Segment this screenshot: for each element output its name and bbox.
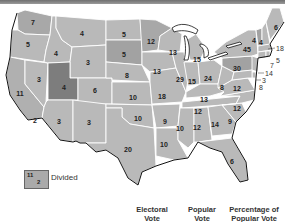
label-ca-divided: 2 bbox=[33, 117, 37, 124]
label-fl: 6 bbox=[230, 158, 234, 165]
label-mn: 12 bbox=[147, 38, 155, 45]
label-ut: 4 bbox=[62, 84, 66, 91]
state-or[interactable] bbox=[10, 30, 50, 62]
label-nh: 4 bbox=[259, 39, 263, 46]
label-mi: 15 bbox=[193, 56, 201, 63]
legend-divided-top: 11 bbox=[27, 172, 33, 178]
label-wi: 13 bbox=[169, 49, 177, 56]
label-wa: 7 bbox=[31, 19, 35, 26]
column-percentage-popular-vote: Percentage of Popular Vote bbox=[226, 205, 282, 222]
label-va: 12 bbox=[233, 85, 241, 92]
column-electoral-vote: Electoral Vote bbox=[130, 205, 174, 222]
label-ct: 7 bbox=[270, 62, 274, 69]
label-sd: 5 bbox=[122, 51, 126, 58]
label-in: 15 bbox=[188, 78, 196, 85]
state-de[interactable] bbox=[252, 72, 256, 78]
label-ny: 45 bbox=[243, 46, 251, 53]
column-popular-vote: Popular Vote bbox=[184, 205, 220, 222]
label-vt: 4 bbox=[252, 37, 256, 44]
label-az: 3 bbox=[57, 118, 61, 125]
label-id: 4 bbox=[54, 50, 58, 57]
label-nm: 3 bbox=[87, 119, 91, 126]
label-ia: 13 bbox=[153, 68, 161, 75]
label-wy: 3 bbox=[86, 59, 90, 66]
label-nv: 3 bbox=[37, 76, 41, 83]
label-nd: 5 bbox=[122, 31, 126, 38]
label-nc: 12 bbox=[233, 105, 241, 112]
label-oh: 24 bbox=[204, 75, 212, 82]
label-co: 6 bbox=[93, 87, 97, 94]
label-wv: 8 bbox=[220, 84, 224, 91]
label-la: 10 bbox=[160, 141, 168, 148]
legend-divided-bottom: 2 bbox=[37, 179, 40, 185]
column-electoral-line1: Electoral bbox=[130, 205, 174, 214]
label-ma: 18 bbox=[276, 45, 284, 52]
label-nj: 14 bbox=[265, 70, 273, 77]
label-ks: 10 bbox=[129, 94, 137, 101]
column-percentage-line2: Popular Vote bbox=[226, 214, 282, 222]
label-or: 5 bbox=[26, 41, 30, 48]
column-popular-line2: Vote bbox=[184, 214, 220, 222]
label-de: 3 bbox=[262, 77, 266, 84]
label-ar: 9 bbox=[163, 118, 167, 125]
state-fl[interactable] bbox=[198, 138, 248, 182]
label-tx: 20 bbox=[124, 146, 132, 153]
column-percentage-line1: Percentage of bbox=[226, 205, 282, 214]
label-mo: 18 bbox=[158, 93, 166, 100]
label-ca: 11 bbox=[16, 90, 24, 97]
label-tn: 12 bbox=[194, 108, 202, 115]
label-me: 6 bbox=[274, 24, 278, 31]
label-sc: 9 bbox=[228, 118, 232, 125]
label-ok: 10 bbox=[134, 115, 142, 122]
label-ky: 13 bbox=[200, 96, 208, 103]
label-ga: 14 bbox=[211, 121, 219, 128]
label-al: 12 bbox=[193, 124, 201, 131]
label-ms: 10 bbox=[176, 125, 184, 132]
label-mt: 4 bbox=[80, 30, 84, 37]
label-md: 8 bbox=[259, 84, 263, 91]
label-il: 29 bbox=[176, 76, 184, 83]
column-electoral-line2: Vote bbox=[130, 214, 174, 222]
column-popular-line1: Popular bbox=[184, 205, 220, 214]
label-ri: 5 bbox=[276, 57, 280, 64]
label-pa: 30 bbox=[233, 65, 241, 72]
label-ne: 8 bbox=[125, 72, 129, 79]
legend-divided-label: Divided bbox=[51, 173, 78, 182]
legend-divided-swatch: 11 2 bbox=[24, 170, 49, 189]
